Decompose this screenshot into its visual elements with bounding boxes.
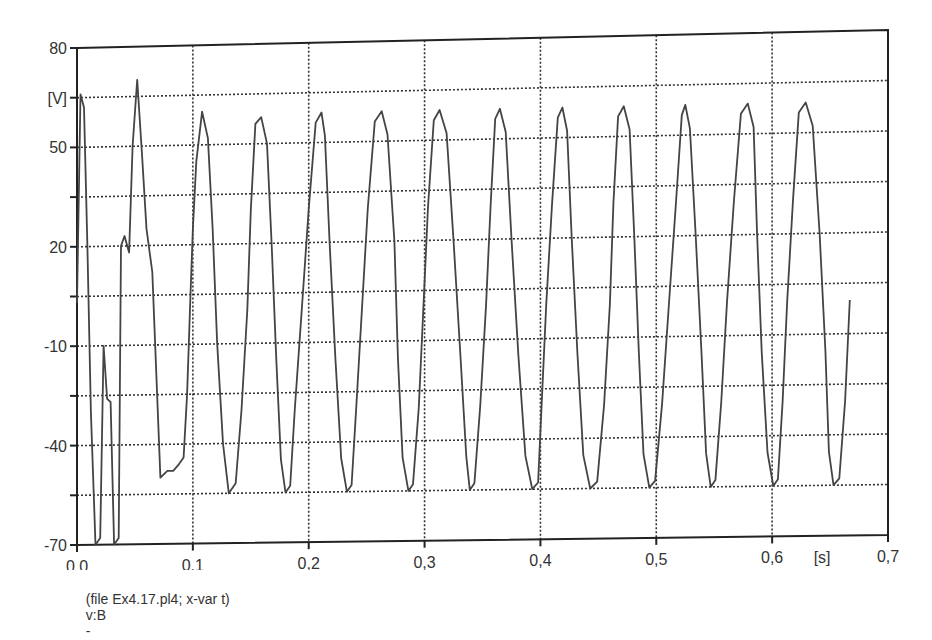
x-tick-label: 0,6 — [761, 549, 783, 566]
x-tick-label: 0,3 — [413, 554, 435, 570]
plot-border — [77, 30, 888, 545]
voltage-chart: 80[V]5020-10-40-700,00,10,20,30,40,50,60… — [0, 0, 932, 570]
y-tick-label: 80 — [49, 40, 67, 57]
x-tick-label: 0,2 — [298, 555, 320, 570]
x-tick-label: 0,1 — [182, 557, 204, 570]
x-tick-label: 0,5 — [645, 551, 667, 568]
y-tick-label: 50 — [49, 139, 67, 156]
h-gridline — [77, 384, 888, 396]
h-gridline — [77, 333, 888, 346]
y-tick-label: -10 — [44, 338, 67, 355]
dash-label: - — [86, 623, 91, 639]
plot-frame — [77, 30, 888, 545]
grid-lines — [77, 33, 888, 544]
file-info-label: (file Ex4.17.pl4; x-var t) — [86, 591, 230, 607]
variable-label: v:B — [86, 607, 106, 623]
x-tick-label: 0,0 — [66, 558, 88, 570]
axis-labels: 80[V]5020-10-40-700,00,10,20,30,40,50,60… — [44, 40, 899, 570]
h-gridline — [77, 182, 888, 198]
y-tick-label: -40 — [44, 438, 67, 455]
y-tick-label: 20 — [49, 239, 67, 256]
y-tick-label: [V] — [47, 90, 67, 107]
axis-ticks — [70, 48, 888, 552]
y-tick-label: -70 — [44, 537, 67, 554]
footer-caption: (file Ex4.17.pl4; x-var t) v:B - — [78, 575, 252, 639]
h-gridline — [77, 283, 888, 297]
x-tick-label: 0,4 — [529, 552, 551, 569]
h-gridline — [77, 485, 888, 496]
h-gridline — [77, 81, 888, 98]
h-gridline — [77, 232, 888, 247]
x-axis-unit-label: [s] — [814, 549, 831, 566]
x-tick-label: 0,7 — [877, 548, 899, 565]
